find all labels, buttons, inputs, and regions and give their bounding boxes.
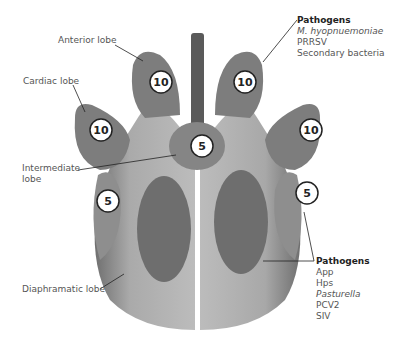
pathogen-item: PCV2 [316,300,370,311]
diaphragmatic-lobe-label: Diaphramatic lobe [22,284,105,295]
anterior-lobe-label: Anterior lobe [58,35,116,46]
svg-text:10: 10 [93,124,109,137]
intermediate-lobe-label-1: Intermediate [22,163,80,174]
pathogen-item: Secondary bacteria [297,48,384,59]
svg-text:10: 10 [153,76,169,89]
svg-text:5: 5 [104,195,112,208]
pathogens-bottom-heading: Pathogens [316,256,370,267]
pathogen-item: PRRSV [297,37,384,48]
intermediate-lobe-label-2: lobe [22,174,41,185]
lesion-right [214,170,268,274]
pathogen-item: SIV [316,311,370,322]
svg-text:5: 5 [198,140,206,153]
svg-text:10: 10 [237,76,253,89]
pathogen-item: Hps [316,278,370,289]
pathogen-item: M. hyopnuemoniae [297,26,384,37]
pathogen-item: Pasturella [316,289,370,300]
svg-text:5: 5 [303,187,311,200]
pathogens-top-heading: Pathogens [297,15,384,26]
cardiac-lobe-label: Cardiac lobe [23,76,79,87]
lesion-left [137,176,191,282]
pathogens-bottom: Pathogens App Hps Pasturella PCV2 SIV [316,256,370,322]
pathogens-top: Pathogens M. hyopnuemoniae PRRSV Seconda… [297,15,384,59]
pathogen-item: App [316,267,370,278]
svg-text:10: 10 [303,124,319,137]
